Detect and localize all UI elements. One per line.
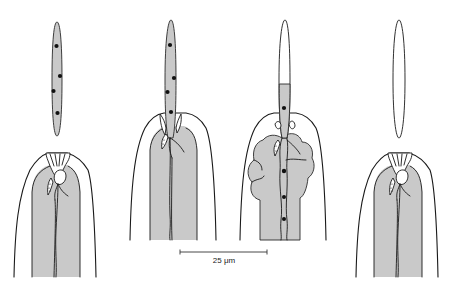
head-2-inner-tissue: [150, 126, 197, 240]
nucleus: [58, 74, 62, 78]
nucleus: [282, 106, 286, 110]
scale-bar: [180, 250, 267, 255]
panel-2: [130, 20, 216, 240]
nucleus: [169, 110, 173, 114]
scale-bar-label: 25 μm: [189, 256, 259, 265]
nucleus: [165, 90, 169, 94]
nucleus: [282, 195, 286, 199]
stylet-1: [52, 22, 62, 136]
nucleus: [168, 43, 172, 47]
nucleus: [55, 111, 59, 115]
stylet-4: [393, 20, 405, 138]
panel-3: [240, 20, 326, 240]
panel-4: [356, 20, 438, 277]
nucleus: [51, 89, 55, 93]
nucleus: [172, 76, 176, 80]
nucleus: [282, 169, 286, 173]
nucleus: [54, 44, 58, 48]
panel-1: [14, 22, 96, 277]
nucleus: [282, 217, 286, 221]
